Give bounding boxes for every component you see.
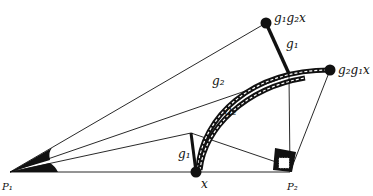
node-g1g2x [261, 18, 272, 29]
label-g1-top: g₁ [286, 37, 299, 51]
label-g2-inner: g₂ [224, 104, 237, 118]
diagram-canvas: P₁ P₂ x g₁g₂x g₂g₁x g₁ g₁ g₂ g₂ [0, 0, 373, 196]
label-p1: P₁ [1, 181, 13, 192]
label-g1g2x: g₁g₂x [274, 11, 306, 25]
edge-g1-bottom [191, 133, 196, 172]
right-angle-inner [279, 158, 289, 168]
node-x [191, 167, 202, 178]
label-p2: P₂ [286, 181, 298, 192]
node-g2g1x [325, 65, 336, 76]
label-g1-bottom: g₁ [178, 147, 191, 161]
label-x: x [201, 177, 208, 191]
label-g2g1x: g₂g₁x [338, 63, 370, 77]
label-g2-outer: g₂ [212, 74, 225, 88]
